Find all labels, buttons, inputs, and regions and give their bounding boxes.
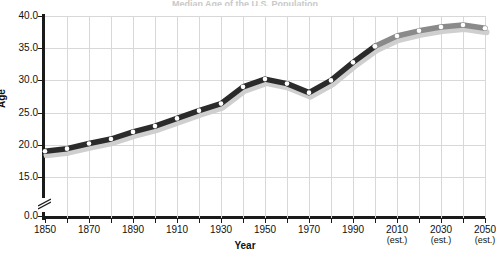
data-point-marker bbox=[373, 44, 378, 49]
x-tick-year: 2050 bbox=[474, 224, 496, 235]
x-tick-year: 1970 bbox=[298, 224, 320, 235]
x-tick bbox=[67, 219, 68, 223]
x-tick bbox=[243, 219, 244, 223]
plot-area bbox=[45, 16, 485, 218]
x-tick-year: 1890 bbox=[122, 224, 144, 235]
data-point-marker bbox=[461, 23, 466, 28]
x-tick bbox=[111, 219, 112, 223]
data-point-marker bbox=[285, 81, 290, 86]
y-tick-label: 0.0 bbox=[24, 211, 38, 221]
x-tick-label: 1970 bbox=[298, 224, 320, 235]
x-tick-year: 1990 bbox=[342, 224, 364, 235]
series-line bbox=[45, 46, 375, 151]
x-tick bbox=[375, 219, 376, 223]
x-tick-label: 1930 bbox=[210, 224, 232, 235]
x-tick-year: 1950 bbox=[254, 224, 276, 235]
x-tick-label: 1990 bbox=[342, 224, 364, 235]
x-tick bbox=[419, 219, 420, 223]
data-series bbox=[45, 16, 485, 218]
data-point-marker bbox=[417, 29, 422, 34]
data-point-marker bbox=[109, 137, 114, 142]
x-tick-label: 1910 bbox=[166, 224, 188, 235]
data-point-marker bbox=[395, 34, 400, 39]
x-tick bbox=[441, 219, 442, 223]
data-point-marker bbox=[241, 85, 246, 90]
x-tick-year: 2030 bbox=[430, 224, 452, 235]
data-point-marker bbox=[329, 78, 334, 83]
x-tick bbox=[309, 219, 310, 223]
data-point-marker bbox=[439, 25, 444, 30]
x-tick bbox=[45, 219, 46, 223]
x-tick bbox=[353, 219, 354, 223]
y-tick-label: 30.0 bbox=[19, 75, 38, 85]
x-tick bbox=[155, 219, 156, 223]
x-tick-label: 1950 bbox=[254, 224, 276, 235]
chart-title-sliver: Median Age of the U.S. Population bbox=[0, 0, 490, 6]
x-axis-title: Year bbox=[0, 240, 490, 251]
gridline bbox=[485, 16, 486, 218]
data-point-marker bbox=[65, 146, 70, 151]
x-tick bbox=[177, 219, 178, 223]
x-tick bbox=[397, 219, 398, 223]
x-tick-year: 1850 bbox=[34, 224, 56, 235]
x-tick-year: 1870 bbox=[78, 224, 100, 235]
x-tick bbox=[221, 219, 222, 223]
x-tick-label: 1890 bbox=[122, 224, 144, 235]
x-tick bbox=[133, 219, 134, 223]
y-tick-label: 25.0 bbox=[19, 108, 38, 118]
y-axis-labels: 0.015.020.025.030.035.040.0 bbox=[0, 0, 38, 257]
data-point-marker bbox=[219, 101, 224, 106]
data-point-marker bbox=[351, 60, 356, 65]
data-point-marker bbox=[197, 108, 202, 113]
x-tick bbox=[287, 219, 288, 223]
data-point-marker bbox=[87, 141, 92, 146]
data-point-marker bbox=[175, 116, 180, 121]
x-tick bbox=[463, 219, 464, 223]
data-point-marker bbox=[131, 130, 136, 135]
x-tick-label: 1870 bbox=[78, 224, 100, 235]
y-tick-label: 40.0 bbox=[19, 11, 38, 21]
x-tick bbox=[89, 219, 90, 223]
x-tick-year: 1910 bbox=[166, 224, 188, 235]
x-tick-year: 2010 bbox=[386, 224, 408, 235]
data-point-marker bbox=[43, 149, 48, 154]
y-tick-label: 15.0 bbox=[19, 172, 38, 182]
x-tick bbox=[265, 219, 266, 223]
x-tick-label: 1850 bbox=[34, 224, 56, 235]
y-tick-label: 20.0 bbox=[19, 140, 38, 150]
y-tick-label: 35.0 bbox=[19, 43, 38, 53]
data-point-marker bbox=[263, 77, 268, 82]
data-point-marker bbox=[307, 90, 312, 95]
data-point-marker bbox=[153, 124, 158, 129]
x-tick bbox=[485, 219, 486, 223]
x-tick bbox=[331, 219, 332, 223]
x-tick bbox=[199, 219, 200, 223]
data-point-marker bbox=[483, 26, 488, 31]
x-tick-year: 1930 bbox=[210, 224, 232, 235]
